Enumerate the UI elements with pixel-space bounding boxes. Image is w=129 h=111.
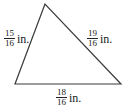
bottom-side-denominator: 16 xyxy=(56,98,67,107)
left-side-unit: in. xyxy=(17,33,29,45)
right-side-denominator: 16 xyxy=(87,39,98,48)
right-side-label: 19 16 in. xyxy=(87,29,112,48)
left-side-label: 15 16 in. xyxy=(4,29,29,48)
bottom-side-fraction: 18 16 xyxy=(56,88,67,107)
bottom-side-label: 18 16 in. xyxy=(56,88,81,107)
bottom-side-unit: in. xyxy=(69,92,81,104)
right-side-unit: in. xyxy=(100,33,112,45)
left-side-denominator: 16 xyxy=(4,39,15,48)
left-side-fraction: 15 16 xyxy=(4,29,15,48)
right-side-fraction: 19 16 xyxy=(87,29,98,48)
